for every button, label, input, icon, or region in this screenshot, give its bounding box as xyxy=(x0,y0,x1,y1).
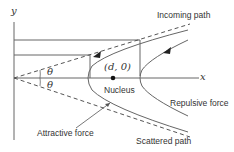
attractive-force-label: Attractive force xyxy=(37,129,94,138)
x-axis-label: x xyxy=(200,72,206,82)
scattered-path-label: Scattered path xyxy=(136,137,191,146)
attractive-path xyxy=(88,30,188,132)
attractive-force-pointer xyxy=(76,103,110,128)
diagram-graphics xyxy=(0,0,234,152)
theta-lower-label: θ xyxy=(47,80,53,90)
nucleus-coordinate-label: (d, 0) xyxy=(104,62,131,72)
nucleus-label: Nucleus xyxy=(104,86,135,95)
incoming-path-label: Incoming path xyxy=(157,11,210,20)
incoming-asymptote xyxy=(14,24,190,78)
nucleus-dot xyxy=(111,76,116,81)
repulsive-force-label: Repulsive force xyxy=(170,99,229,108)
y-axis-label: y xyxy=(11,6,17,16)
theta-upper-label: θ xyxy=(47,67,53,77)
scattering-diagram: y x Incoming path (d, 0) Nucleus Repulsi… xyxy=(0,0,234,152)
repulsive-arrow-icon xyxy=(163,47,171,54)
